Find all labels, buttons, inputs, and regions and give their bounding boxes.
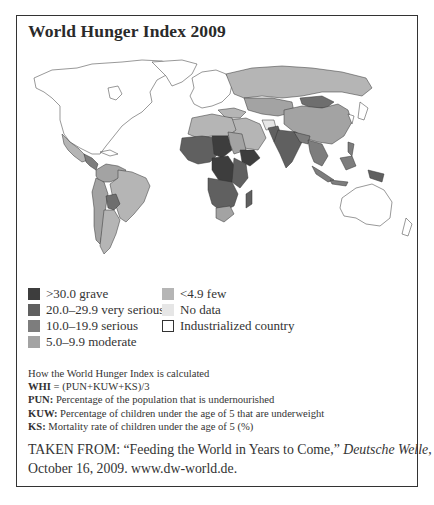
swatch-moderate <box>28 336 40 348</box>
legend-item-no-data: No data <box>162 302 294 318</box>
legend-item-serious: 10.0–19.9 serious <box>28 318 164 334</box>
swatch-no-data <box>162 304 174 316</box>
region-australia <box>340 184 392 226</box>
legend-label: >30.0 grave <box>46 286 108 302</box>
region-indonesia-borneo <box>340 156 356 170</box>
legend-label: No data <box>180 302 221 318</box>
legend-label: 20.0–29.9 very serious <box>46 302 164 318</box>
region-southeast-asia <box>308 140 328 166</box>
source-line-1: TAKEN FROM: “Feeding the World in Years … <box>28 440 432 459</box>
region-madagascar <box>246 190 252 208</box>
legend-item-industrialized: Industrialized country <box>162 318 294 334</box>
figure-title: World Hunger Index 2009 <box>28 21 226 42</box>
formula-line: WHI = (PUN+KUW+KS)/3 <box>28 380 324 393</box>
world-hunger-map <box>22 58 414 268</box>
legend: >30.0 grave 20.0–29.9 very serious 10.0–… <box>28 286 408 350</box>
legend-item-grave: >30.0 grave <box>28 286 164 302</box>
definition-term: PUN: <box>28 394 53 405</box>
region-south-africa <box>216 206 234 222</box>
legend-label: 10.0–19.9 serious <box>46 318 138 334</box>
region-sumatra <box>312 166 334 182</box>
region-philippines <box>348 142 354 156</box>
definition-kuw: KUW: Percentage of children under the ag… <box>28 407 324 420</box>
region-central-america <box>84 154 98 170</box>
formula-term: WHI <box>28 381 51 392</box>
swatch-industrialized <box>162 320 174 332</box>
definition-ks: KS: Mortality rate of children under the… <box>28 420 324 433</box>
definition-term: KUW: <box>28 408 57 419</box>
legend-item-very-serious: 20.0–29.9 very serious <box>28 302 164 318</box>
legend-label: Industrialized country <box>180 318 294 334</box>
legend-item-few: <4.9 few <box>162 286 294 302</box>
legend-label: 5.0–9.9 moderate <box>46 334 137 350</box>
swatch-very-serious <box>28 304 40 316</box>
source-suffix: , <box>428 442 431 457</box>
region-japan <box>358 102 368 120</box>
definition-text: Percentage of children under the age of … <box>57 408 324 419</box>
legend-column-right: <4.9 few No data Industrialized country <box>162 286 294 334</box>
source-citation: TAKEN FROM: “Feeding the World in Years … <box>28 440 432 478</box>
region-caribbean <box>100 150 118 156</box>
definition-term: KS: <box>28 421 46 432</box>
region-new-zealand <box>402 218 412 236</box>
region-papua <box>368 170 384 182</box>
swatch-serious <box>28 320 40 332</box>
legend-item-moderate: 5.0–9.9 moderate <box>28 334 164 350</box>
source-line-2: October 16, 2009. www.dw-world.de. <box>28 459 432 478</box>
source-publication: Deutsche Welle <box>343 442 428 457</box>
source-prefix: TAKEN FROM: “Feeding the World in Years … <box>28 442 343 457</box>
swatch-grave <box>28 288 40 300</box>
calculation-notes: How the World Hunger Index is calculated… <box>28 367 324 433</box>
region-java <box>330 180 348 186</box>
region-europe <box>190 70 232 108</box>
definition-text: Mortality rate of children under the age… <box>46 421 254 432</box>
definition-text: Percentage of the population that is und… <box>53 394 274 405</box>
swatch-few <box>162 288 174 300</box>
region-north-america <box>34 60 172 154</box>
region-russia <box>226 66 372 98</box>
legend-column-left: >30.0 grave 20.0–29.9 very serious 10.0–… <box>28 286 164 350</box>
formula-text: = (PUN+KUW+KS)/3 <box>51 381 150 392</box>
legend-label: <4.9 few <box>180 286 226 302</box>
definition-pun: PUN: Percentage of the population that i… <box>28 393 324 406</box>
calculation-heading: How the World Hunger Index is calculated <box>28 367 324 380</box>
